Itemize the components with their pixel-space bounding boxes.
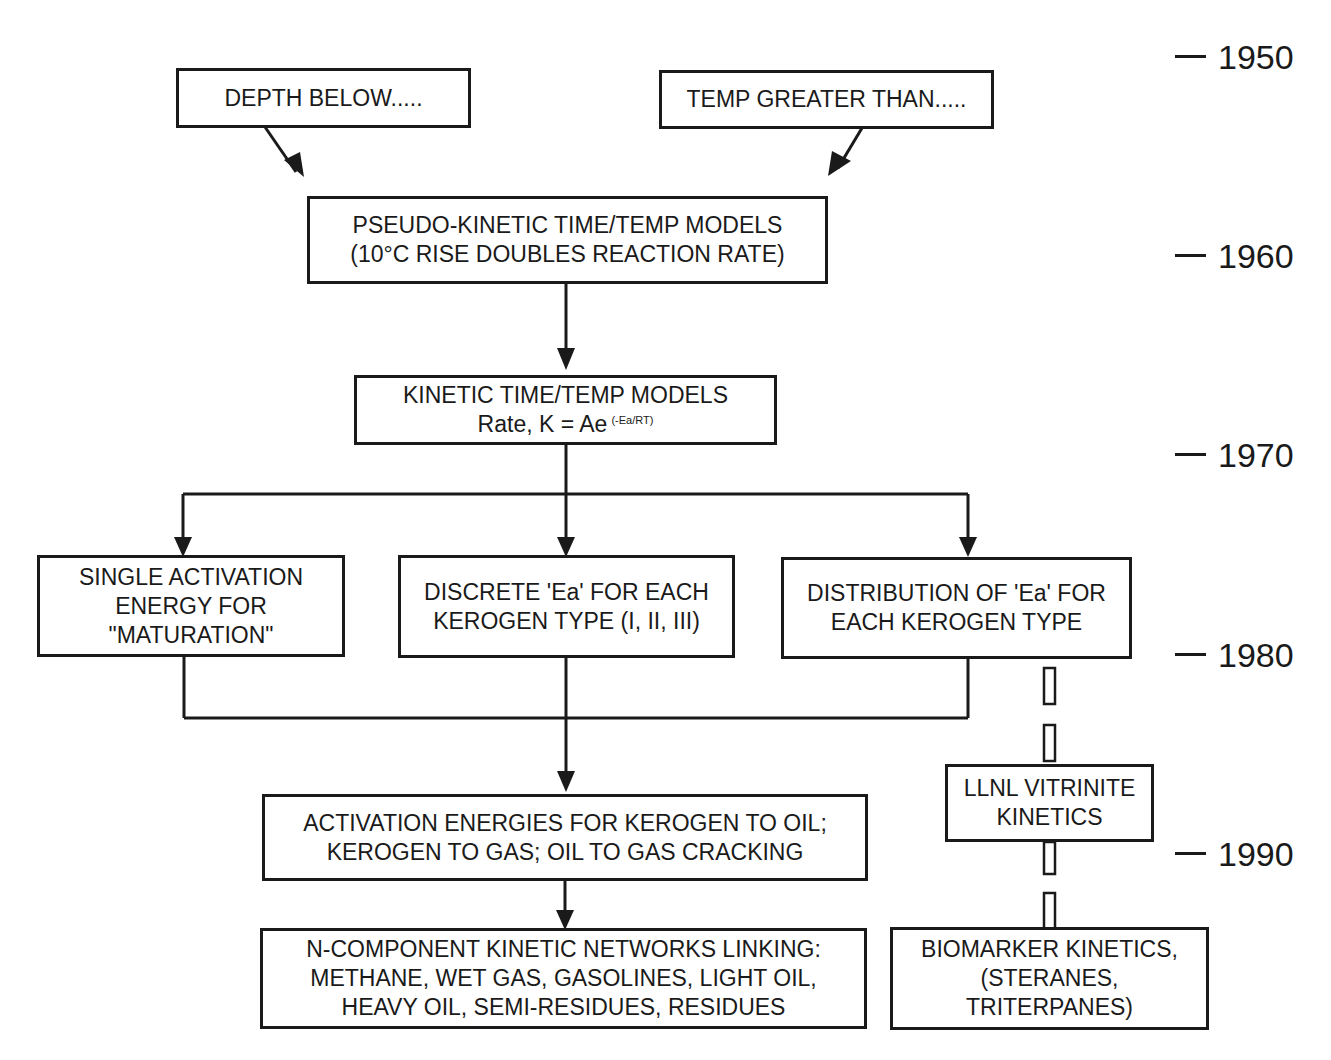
node-text: DISCRETE 'Ea' FOR EACH bbox=[424, 578, 709, 607]
connector-layer bbox=[0, 0, 1331, 1060]
node-text: KINETIC TIME/TEMP MODELS bbox=[403, 381, 728, 410]
arrowhead-icon bbox=[959, 537, 977, 557]
node-text: KINETICS bbox=[964, 803, 1136, 832]
node-text: (STERANES, bbox=[921, 964, 1178, 993]
node-text: "MATURATION" bbox=[79, 621, 303, 650]
year-text: 1960 bbox=[1218, 237, 1294, 275]
arrowhead-icon bbox=[557, 771, 575, 792]
dashed-bar-segment bbox=[1044, 842, 1055, 874]
node-temp-greater: TEMP GREATER THAN..... bbox=[659, 70, 994, 129]
formula-base: Rate, K = Ae bbox=[478, 411, 608, 437]
arrowhead-icon bbox=[174, 537, 192, 557]
node-text: BIOMARKER KINETICS, bbox=[921, 935, 1178, 964]
node-text: KEROGEN TO GAS; OIL TO GAS CRACKING bbox=[303, 838, 827, 867]
year-text: 1970 bbox=[1218, 436, 1294, 474]
node-text: KEROGEN TYPE (I, II, III) bbox=[424, 607, 709, 636]
node-single-activation: SINGLE ACTIVATION ENERGY FOR "MATURATION… bbox=[37, 555, 345, 657]
formula-exponent: (-Ea/RT) bbox=[611, 414, 653, 426]
arrowhead-icon bbox=[557, 348, 575, 370]
node-distribution-ea: DISTRIBUTION OF 'Ea' FOR EACH KEROGEN TY… bbox=[781, 557, 1132, 659]
year-text: 1980 bbox=[1218, 636, 1294, 674]
year-text: 1990 bbox=[1218, 835, 1294, 873]
timeline-label-1980: 1980 bbox=[1175, 638, 1294, 672]
node-text: PSEUDO-KINETIC TIME/TEMP MODELS bbox=[350, 211, 784, 240]
timeline-tick bbox=[1175, 55, 1206, 58]
timeline-tick bbox=[1175, 653, 1206, 656]
node-text: ENERGY FOR bbox=[79, 592, 303, 621]
timeline-tick bbox=[1175, 254, 1206, 257]
node-text: DEPTH BELOW..... bbox=[224, 84, 422, 113]
node-text: (10°C RISE DOUBLES REACTION RATE) bbox=[350, 240, 784, 269]
node-text: METHANE, WET GAS, GASOLINES, LIGHT OIL, bbox=[306, 964, 821, 993]
node-kinetic: KINETIC TIME/TEMP MODELS Rate, K = Ae(-E… bbox=[354, 375, 777, 445]
arrowhead-icon bbox=[557, 537, 575, 557]
arrowhead-icon bbox=[556, 910, 574, 930]
node-text: DISTRIBUTION OF 'Ea' FOR bbox=[807, 579, 1106, 608]
timeline-label-1950: 1950 bbox=[1175, 40, 1294, 74]
timeline-label-1990: 1990 bbox=[1175, 837, 1294, 871]
node-text: N-COMPONENT KINETIC NETWORKS LINKING: bbox=[306, 935, 821, 964]
arrowhead-icon bbox=[284, 152, 304, 177]
dashed-bar-segment bbox=[1044, 725, 1055, 761]
node-text: TEMP GREATER THAN..... bbox=[687, 85, 967, 114]
dashed-bar-segment bbox=[1044, 893, 1055, 929]
node-text: LLNL VITRINITE bbox=[964, 774, 1136, 803]
dashed-bar-segment bbox=[1044, 668, 1055, 704]
timeline-label-1960: 1960 bbox=[1175, 239, 1294, 273]
timeline-label-1970: 1970 bbox=[1175, 438, 1294, 472]
node-text: HEAVY OIL, SEMI-RESIDUES, RESIDUES bbox=[306, 993, 821, 1022]
node-text: ACTIVATION ENERGIES FOR KEROGEN TO OIL; bbox=[303, 809, 827, 838]
node-llnl-vitrinite: LLNL VITRINITE KINETICS bbox=[945, 764, 1154, 842]
node-formula: Rate, K = Ae(-Ea/RT) bbox=[403, 410, 728, 439]
timeline-tick bbox=[1175, 453, 1206, 456]
node-activation-energies: ACTIVATION ENERGIES FOR KEROGEN TO OIL; … bbox=[262, 794, 868, 881]
timeline-tick bbox=[1175, 852, 1206, 855]
node-text: SINGLE ACTIVATION bbox=[79, 563, 303, 592]
year-text: 1950 bbox=[1218, 38, 1294, 76]
node-text: TRITERPANES) bbox=[921, 993, 1178, 1022]
node-discrete-ea: DISCRETE 'Ea' FOR EACH KEROGEN TYPE (I, … bbox=[398, 555, 735, 658]
node-text: EACH KEROGEN TYPE bbox=[807, 608, 1106, 637]
node-n-component: N-COMPONENT KINETIC NETWORKS LINKING: ME… bbox=[260, 928, 867, 1029]
node-pseudo-kinetic: PSEUDO-KINETIC TIME/TEMP MODELS (10°C RI… bbox=[307, 196, 828, 284]
node-depth-below: DEPTH BELOW..... bbox=[176, 68, 471, 128]
node-biomarker: BIOMARKER KINETICS, (STERANES, TRITERPAN… bbox=[890, 927, 1209, 1030]
